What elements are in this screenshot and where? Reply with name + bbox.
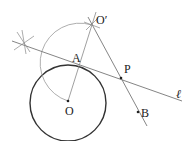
label-p: P (124, 62, 131, 76)
construction-arc (40, 23, 92, 101)
geometry-diagram: O′ A O P B ℓ (0, 0, 192, 141)
label-o: O (65, 104, 74, 118)
line-l (12, 41, 182, 101)
point-o (67, 100, 70, 103)
circle-o (30, 65, 106, 141)
label-line-l: ℓ (176, 87, 181, 101)
label-a: A (72, 51, 81, 65)
point-p (120, 77, 123, 80)
construction-mark-left (14, 30, 34, 54)
line-oprime-b (88, 17, 147, 126)
point-b (137, 111, 140, 114)
label-b: B (141, 106, 149, 120)
label-o-prime: O′ (96, 13, 108, 27)
